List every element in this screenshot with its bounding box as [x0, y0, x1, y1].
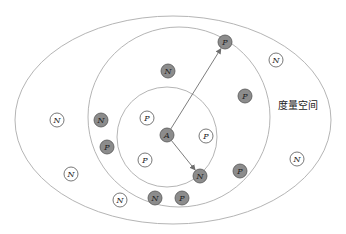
arrow-to-n — [171, 140, 195, 169]
positive-node-filled: P — [175, 191, 189, 205]
positive-node-outline: P — [140, 111, 154, 125]
anchor-node-filled: A — [160, 128, 174, 142]
metric-space-label: 度量空间 — [278, 99, 318, 111]
node-label: P — [103, 143, 110, 152]
node-label: N — [53, 116, 62, 125]
node-label: N — [67, 170, 76, 179]
positive-node-outline: P — [199, 129, 213, 143]
positive-node-filled: P — [100, 140, 114, 154]
middle-circle — [88, 27, 270, 207]
negative-node-filled: N — [94, 113, 108, 127]
node-label: P — [178, 194, 185, 203]
node-label: P — [202, 132, 209, 141]
node-label: N — [196, 172, 205, 181]
metric-space-diagram: APNNPPPNPPPNPNNNNN 度量空间 — [0, 0, 346, 234]
positive-node-outline: P — [138, 153, 152, 167]
negative-node-outline: N — [113, 193, 127, 207]
node-label: N — [97, 116, 106, 125]
negative-node-outline: N — [64, 167, 78, 181]
positive-node-filled: P — [233, 164, 247, 178]
positive-node-filled: P — [238, 89, 252, 103]
node-label: P — [143, 114, 150, 123]
negative-node-outline: N — [269, 53, 283, 67]
node-label: P — [236, 167, 243, 176]
node-label: P — [141, 156, 148, 165]
positive-node-filled: P — [218, 35, 232, 49]
negative-node-filled: N — [193, 169, 207, 183]
negative-node-filled: N — [148, 191, 162, 205]
distance-arrows — [171, 49, 221, 170]
negative-node-outline: N — [50, 113, 64, 127]
node-label: N — [116, 196, 125, 205]
node-label: N — [293, 155, 302, 164]
negative-node-filled: N — [161, 64, 175, 78]
node-label: A — [163, 131, 170, 140]
node-label: N — [151, 194, 160, 203]
node-label: N — [272, 56, 281, 65]
node-label: P — [241, 92, 248, 101]
node-label: N — [164, 67, 173, 76]
node-label: P — [221, 38, 228, 47]
negative-node-outline: N — [290, 152, 304, 166]
